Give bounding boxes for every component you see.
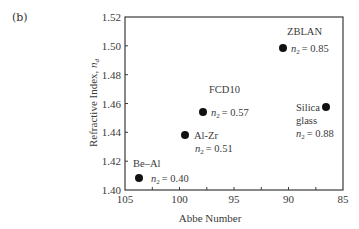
label-be-al-n2: n2= 0.40 — [151, 173, 189, 186]
label-al-zr-n2: n2= 0.51 — [195, 143, 233, 156]
y-tick-label: 1.48 — [102, 69, 122, 81]
y-tick-label: 1.52 — [102, 11, 121, 23]
x-tick-label: 105 — [117, 193, 134, 205]
x-tick-label: 85 — [338, 193, 350, 205]
label-fcd10: FCD10 — [209, 84, 240, 95]
label-silica-n2: n2= 0.88 — [296, 128, 334, 141]
scatter-chart: 1.40 1.42 1.44 1.46 1.48 1.50 1.52 105 1… — [0, 0, 359, 229]
label-silica-glass: glass — [296, 115, 317, 126]
x-tick-label: 95 — [229, 193, 241, 205]
y-tick-label: 1.50 — [102, 40, 122, 52]
point-annotations: Be–Al n2= 0.40 Al-Zr n2= 0.51 FCD10 n2= … — [133, 26, 334, 186]
y-axis-title: Refractive Index, nd — [87, 58, 101, 147]
x-tick-label: 100 — [171, 193, 188, 205]
label-zblan-n2: n2= 0.85 — [291, 43, 329, 56]
x-tick-labels: 105 100 95 90 85 — [117, 193, 349, 205]
label-fcd10-n2: n2= 0.57 — [211, 107, 249, 120]
marker-silica-glass — [322, 103, 330, 111]
x-axis-title: Abbe Number — [179, 212, 242, 224]
y-tick-label: 1.44 — [102, 126, 122, 138]
y-tick-label: 1.42 — [102, 155, 121, 167]
y-tick-labels: 1.40 1.42 1.44 1.46 1.48 1.50 1.52 — [102, 11, 122, 196]
marker-zblan — [279, 44, 287, 52]
marker-be-al — [135, 174, 143, 182]
label-al-zr: Al-Zr — [194, 130, 218, 141]
marker-al-zr — [181, 131, 189, 139]
label-silica: Silica — [296, 102, 320, 113]
y-tick-label: 1.46 — [102, 98, 122, 110]
marker-fcd10 — [199, 108, 207, 116]
x-tick-label: 90 — [283, 193, 295, 205]
label-be-al: Be–Al — [133, 158, 160, 169]
label-zblan: ZBLAN — [287, 26, 322, 37]
